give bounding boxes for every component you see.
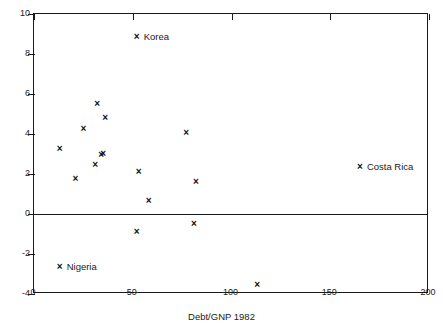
- x-tick-label: 50: [127, 287, 137, 297]
- x-tick-mark: [133, 14, 134, 20]
- data-point-label: Costa Rica: [367, 161, 413, 173]
- data-point: ×: [189, 219, 198, 229]
- x-tick-mark: [34, 14, 35, 20]
- data-point: ×: [71, 174, 80, 184]
- y-tick-label: 2: [25, 167, 30, 180]
- data-point: ×: [55, 144, 64, 154]
- y-tick-label: 8: [25, 47, 30, 60]
- x-tick-mark: [232, 14, 233, 20]
- data-point: ×: [99, 149, 108, 159]
- data-point: ×: [191, 177, 200, 187]
- y-tick-label: 10: [20, 7, 30, 20]
- data-point: ×: [91, 160, 100, 170]
- x-tick-mark: [429, 14, 430, 20]
- data-point-label: Korea: [144, 31, 169, 43]
- data-point: ×: [101, 113, 110, 123]
- data-point: ×: [253, 280, 262, 290]
- x-tick-mark: [330, 14, 331, 20]
- plot-area: -4-20246810 ×××××××××Korea××××××××Costa …: [33, 13, 428, 293]
- y-tick-label: 0: [25, 207, 30, 220]
- y-tick-label: 6: [25, 87, 30, 100]
- x-tick-label: 200: [420, 287, 435, 297]
- scatter-chart-figure: -4-20246810 ×××××××××Korea××××××××Costa …: [0, 0, 443, 335]
- data-point-costa-rica: ×: [355, 162, 364, 172]
- x-axis-title: Debt/GNP 1982: [0, 311, 443, 322]
- x-tick-label: 0: [30, 287, 35, 297]
- data-point-nigeria: ×: [55, 262, 64, 272]
- y-tick-label: 4: [25, 127, 30, 140]
- zero-reference-line: [34, 214, 427, 215]
- data-point: ×: [144, 196, 153, 206]
- data-point: ×: [134, 167, 143, 177]
- data-point: ×: [132, 227, 141, 237]
- data-point-label: Nigeria: [67, 261, 97, 273]
- y-tick-label: -4: [22, 287, 30, 300]
- x-tick-label: 150: [322, 287, 337, 297]
- data-point: ×: [182, 128, 191, 138]
- data-point-korea: ×: [132, 32, 141, 42]
- data-point: ×: [93, 99, 102, 109]
- data-point: ×: [79, 124, 88, 134]
- y-tick-label: -2: [22, 247, 30, 260]
- x-tick-label: 100: [223, 287, 238, 297]
